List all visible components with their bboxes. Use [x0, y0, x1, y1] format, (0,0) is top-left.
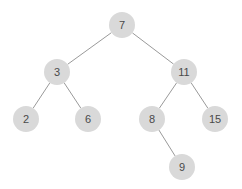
node-label: 11 [178, 66, 189, 78]
edge-3-6 [64, 83, 81, 108]
edge-3-2 [33, 83, 50, 108]
tree-node-8: 8 [139, 106, 165, 132]
tree-svg: 7311268159 [0, 0, 242, 189]
tree-node-9: 9 [169, 154, 195, 180]
edge-11-8 [159, 83, 176, 109]
edge-7-11 [132, 33, 173, 64]
tree-node-11: 11 [171, 59, 197, 85]
node-label: 15 [209, 113, 221, 125]
tree-node-3: 3 [44, 59, 70, 85]
edges [33, 33, 208, 156]
edge-8-9 [159, 130, 175, 156]
nodes: 7311268159 [13, 12, 228, 180]
node-label: 9 [179, 161, 185, 173]
node-label: 8 [149, 113, 155, 125]
edge-11-15 [191, 83, 208, 108]
tree-node-7: 7 [109, 12, 135, 38]
tree-node-15: 15 [202, 106, 228, 132]
node-label: 3 [54, 66, 60, 78]
tree-node-6: 6 [75, 106, 101, 132]
node-label: 2 [23, 113, 29, 125]
node-label: 7 [119, 19, 125, 31]
edge-7-3 [68, 33, 112, 65]
node-label: 6 [85, 113, 91, 125]
binary-tree-diagram: 7311268159 [0, 0, 242, 189]
tree-node-2: 2 [13, 106, 39, 132]
